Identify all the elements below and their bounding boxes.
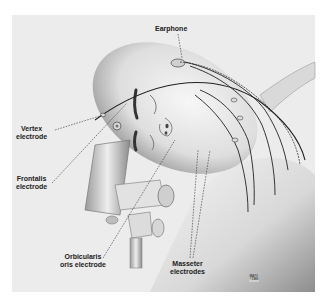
label-masseter-electrodes: Masseter electrodes — [170, 260, 205, 275]
label-line: Vertex — [16, 125, 47, 133]
label-line: Masseter — [170, 260, 205, 268]
label-line: electrode — [16, 133, 47, 141]
label-vertex-electrode: Vertex electrode — [16, 125, 47, 140]
label-orbicularis-electrode: Orbicularis oris electrode — [60, 253, 106, 268]
label-earphone: Earphone — [155, 25, 187, 33]
label-line: electrodes — [170, 268, 205, 276]
head-illustration — [0, 0, 326, 300]
artist-signature: MAYO ©1990 — [249, 274, 259, 282]
label-line: Frontalis — [16, 175, 47, 183]
label-earphone-text: Earphone — [155, 25, 187, 33]
label-line: electrode — [16, 183, 47, 191]
earphone-icon — [171, 59, 185, 67]
label-line: oris electrode — [60, 261, 106, 269]
signature-line: ©1990 — [250, 278, 259, 282]
label-frontalis-electrode: Frontalis electrode — [16, 175, 47, 190]
label-line: Orbicularis — [60, 253, 106, 261]
